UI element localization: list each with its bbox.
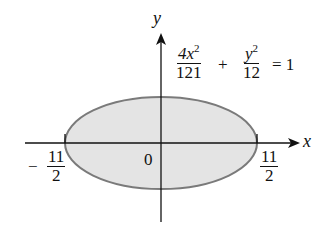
equation-term1: 4x2 121 (176, 45, 202, 82)
y-axis-label: y (153, 8, 161, 29)
tick-left-label: 11 2 (47, 148, 65, 185)
tick-left-sign: − (28, 157, 38, 177)
ellipse-diagram (0, 0, 333, 232)
x-axis-label: x (303, 131, 311, 152)
equation-equals: = 1 (272, 55, 294, 75)
tick-right-label: 11 2 (260, 148, 278, 185)
origin-label: 0 (144, 150, 153, 170)
equation-term2: y2 12 (243, 45, 260, 82)
equation-plus: + (218, 55, 228, 75)
